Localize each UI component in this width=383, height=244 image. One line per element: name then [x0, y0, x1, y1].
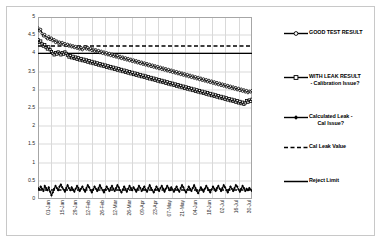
y-axis-tick-label: 2: [32, 124, 35, 129]
legend-marker-filled-diamond-icon: [283, 113, 309, 122]
x-axis-tick-label: 23-Apr: [153, 200, 158, 215]
legend-label: Calculated Leak -Cal Issue?: [309, 113, 353, 128]
plot-area: [38, 17, 252, 199]
x-axis-tick-label: 01-Jan: [46, 200, 51, 215]
legend-marker-none-icon: [283, 177, 309, 186]
legend-label-main: Reject Limit: [309, 177, 339, 183]
legend-marker-open-square-icon: [283, 73, 309, 82]
y-axis-tick-label: 4.5: [28, 33, 35, 38]
plot-svg: [38, 17, 252, 199]
x-axis-tick-label: 29-Jan: [73, 200, 78, 215]
legend-item: Calculated Leak -Cal Issue?: [283, 113, 353, 128]
series-marker: [53, 38, 55, 40]
y-axis-tick-label: 3.5: [28, 69, 35, 74]
legend-item: WITH LEAK RESULT- Calibration Issue?: [283, 73, 361, 88]
legend-item: Reject Limit: [283, 177, 339, 186]
y-axis-tick-label: 5: [32, 14, 35, 19]
series-marker: [48, 36, 50, 38]
y-axis-tick-label: 2.5: [28, 105, 35, 110]
series-marker: [44, 44, 46, 46]
legend-marker-open-circle-icon: [283, 29, 309, 38]
series-marker: [48, 46, 50, 48]
legend-label-main: Calculated Leak -: [309, 113, 353, 119]
y-axis-tick-label: 0: [32, 196, 35, 201]
legend-item: GOOD TEST RESULT: [283, 29, 363, 38]
series-marker: [251, 89, 252, 91]
y-axis-tick-label: 4: [32, 51, 35, 56]
legend-marker-none-icon: [283, 143, 309, 152]
legend-label: WITH LEAK RESULT- Calibration Issue?: [309, 73, 361, 88]
x-axis-tick-label: 30-Jul: [247, 200, 252, 213]
y-axis-tick-labels: 00.511.522.533.544.55: [16, 17, 35, 199]
legend-label-sub: - Calibration Issue?: [309, 80, 361, 87]
series-marker: [38, 38, 39, 40]
x-axis-tick-label: 15-Jan: [60, 200, 65, 215]
y-axis-tick-label: 1: [32, 160, 35, 165]
legend-label: Cal Leak Value: [309, 143, 346, 150]
legend-label-sub: Cal Issue?: [309, 120, 353, 127]
legend-label-main: Cal Leak Value: [309, 143, 346, 149]
x-axis-tick-label: 16-Jul: [234, 200, 239, 213]
series-marker: [38, 27, 39, 29]
series-marker: [40, 40, 42, 42]
legend-label: GOOD TEST RESULT: [309, 29, 363, 36]
x-axis-tick-label: 12-Mar: [113, 200, 118, 216]
x-axis-tick-label: 12-Feb: [86, 200, 91, 216]
x-axis-tick-label: 26-Feb: [100, 200, 105, 216]
x-axis-tick-label: 02-Jul: [220, 200, 225, 213]
legend-label-main: WITH LEAK RESULT: [309, 73, 361, 79]
chart-legend: GOOD TEST RESULTWITH LEAK RESULT- Calibr…: [283, 17, 379, 199]
legend-label-main: GOOD TEST RESULT: [309, 29, 363, 35]
line-chart: 00.511.522.533.544.55 01-Jan15-Jan29-Jan…: [0, 0, 383, 244]
y-axis-tick-label: 0.5: [28, 178, 35, 183]
y-axis-tick-label: 3: [32, 87, 35, 92]
series-marker: [44, 33, 46, 35]
x-axis-tick-labels: 01-Jan15-Jan29-Jan12-Feb26-Feb12-Mar26-M…: [38, 200, 252, 242]
series-marker: [40, 28, 42, 30]
legend-item: Cal Leak Value: [283, 143, 346, 152]
series-marker: [41, 32, 43, 34]
x-axis-tick-label: 07-May: [167, 200, 172, 216]
x-axis-tick-label: 18-Jun: [207, 200, 212, 215]
x-axis-tick-label: 26-Mar: [127, 200, 132, 216]
legend-label: Reject Limit: [309, 177, 339, 184]
x-axis-tick-label: 21-May: [180, 200, 185, 216]
y-axis-tick-label: 1.5: [28, 142, 35, 147]
series-marker: [50, 37, 52, 39]
x-axis-tick-label: 09-Apr: [140, 200, 145, 215]
x-axis-tick-label: 04-Jun: [193, 200, 198, 215]
series-marker: [251, 98, 252, 100]
